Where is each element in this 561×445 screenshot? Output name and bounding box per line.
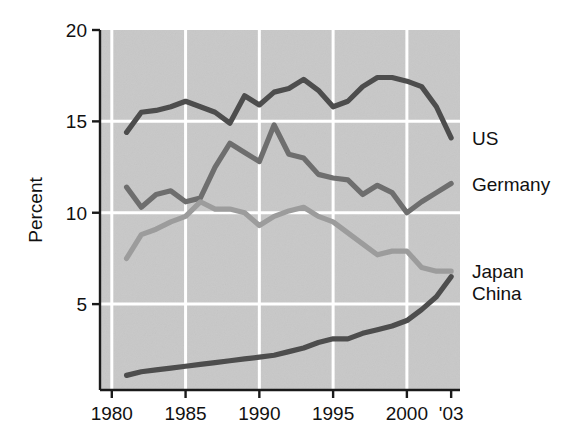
y-axis-title: Percent <box>25 177 46 243</box>
chart-figure: 2015105 19801985199019952000'03 Percent … <box>0 0 561 445</box>
x-tick-label: 2000 <box>386 403 428 424</box>
y-axis-title-text: Percent <box>25 177 46 243</box>
series-labels: USGermanyJapanChina <box>472 128 551 304</box>
line-chart: 2015105 19801985199019952000'03 Percent … <box>0 0 561 445</box>
series-label-us: US <box>472 128 498 149</box>
series-label-japan: Japan <box>472 261 524 282</box>
y-tick-label: 5 <box>76 294 87 315</box>
x-tick-label: 1995 <box>312 403 354 424</box>
y-tick-label: 15 <box>66 111 87 132</box>
x-tick-label: '03 <box>439 403 464 424</box>
x-tick-label: 1990 <box>238 403 280 424</box>
y-tick-labels: 2015105 <box>66 20 87 315</box>
x-tick-labels: 19801985199019952000'03 <box>91 403 464 424</box>
series-label-germany: Germany <box>472 174 551 195</box>
y-tick-label: 10 <box>66 203 87 224</box>
series-label-china: China <box>472 283 522 304</box>
x-tick-label: 1980 <box>91 403 133 424</box>
y-tick-label: 20 <box>66 20 87 41</box>
x-tick-label: 1985 <box>164 403 206 424</box>
